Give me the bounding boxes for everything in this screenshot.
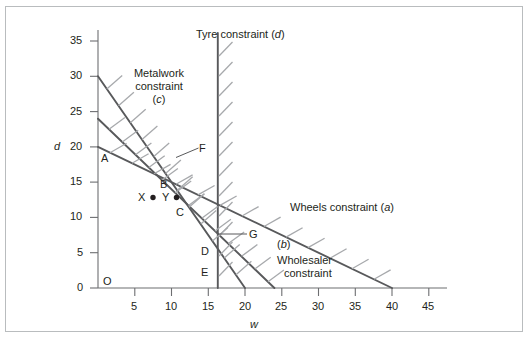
x-tick-label-35: 35 xyxy=(349,300,361,312)
leader-line-F xyxy=(176,148,199,158)
metalwork-line2: constraint xyxy=(135,80,183,92)
x-tick-label-5: 5 xyxy=(131,300,137,312)
vertex-label-G: G xyxy=(249,228,258,240)
metalwork-constraint-label: Metalwork constraint (c) xyxy=(112,67,206,106)
wholesaler-paren-close: ) xyxy=(287,238,291,250)
marker-Y xyxy=(174,195,179,200)
x-axis-ticks xyxy=(135,288,429,296)
leader-lines xyxy=(176,148,247,234)
figure-page: 35 30 25 20 15 10 5 0 d 5 10 15 20 25 30… xyxy=(0,0,529,345)
y-tick-label-30: 30 xyxy=(70,69,82,81)
y-tick-label-20: 20 xyxy=(70,140,82,152)
point-label-Y: Y xyxy=(162,191,169,203)
constraint-plot xyxy=(0,0,529,345)
tyre-constraint-text: Tyre constraint ( xyxy=(196,28,275,40)
metalwork-paren-close: ) xyxy=(162,93,166,105)
point-label-X: X xyxy=(138,191,145,203)
vertex-label-E: E xyxy=(201,266,208,278)
wheels-constraint-text: Wheels constraint ( xyxy=(290,201,384,213)
vertex-label-F: F xyxy=(199,142,206,154)
metalwork-line1: Metalwork xyxy=(134,67,184,79)
vertex-label-B: B xyxy=(160,178,167,190)
x-tick-label-20: 20 xyxy=(239,300,251,312)
x-tick-label-30: 30 xyxy=(312,300,324,312)
tyre-constraint-paren: ) xyxy=(281,28,285,40)
x-tick-label-15: 15 xyxy=(202,300,214,312)
y-tick-label-15: 15 xyxy=(70,175,82,187)
wholesaler-constraint-label: Wholesaler constraint xyxy=(277,254,332,280)
y-axis-ticks xyxy=(90,41,98,288)
x-tick-label-40: 40 xyxy=(386,300,398,312)
wheels-constraint-label: Wheels constraint (a) xyxy=(290,201,394,214)
y-tick-label-25: 25 xyxy=(70,105,82,117)
x-axis-label: w xyxy=(250,318,258,330)
x-tick-label-10: 10 xyxy=(165,300,177,312)
y-axis-label: d xyxy=(54,140,60,152)
wholesaler-hatching xyxy=(109,118,284,282)
vertex-label-O: O xyxy=(103,275,112,287)
wholesaler-line2: constraint xyxy=(277,267,332,280)
y-tick-label-0: 0 xyxy=(77,281,83,293)
wholesaler-constraint-tag: (b) xyxy=(277,238,290,251)
wholesaler-line1: Wholesaler xyxy=(277,254,332,266)
x-tick-label-25: 25 xyxy=(275,300,287,312)
vertex-label-D: D xyxy=(201,245,209,257)
x-tick-label-45: 45 xyxy=(422,300,434,312)
y-tick-label-5: 5 xyxy=(77,246,83,258)
vertex-label-C: C xyxy=(176,206,184,218)
y-tick-label-10: 10 xyxy=(70,210,82,222)
marker-X xyxy=(150,195,155,200)
y-tick-label-35: 35 xyxy=(70,34,82,46)
vertex-label-A: A xyxy=(101,152,108,164)
tyre-constraint-label: Tyre constraint (d) xyxy=(196,28,285,41)
wheels-constraint-paren: ) xyxy=(390,201,394,213)
